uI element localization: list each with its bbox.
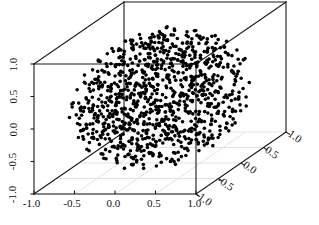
z-tick-label-1: 0.5: [8, 90, 19, 104]
scatter3d-figure: -1.0-0.50.00.51.0 1.00.50.0-0.5-1.0 -1.0…: [0, 0, 319, 225]
z-tick-label-3: -0.5: [7, 153, 18, 170]
axis-tick-marks: [31, 64, 291, 197]
x-tick-label-1: -0.5: [63, 198, 80, 209]
z-tick-label-2: 0.0: [8, 122, 19, 136]
x-tick-label-2: 0.0: [107, 198, 121, 209]
x-tick-label-3: 0.5: [147, 198, 161, 209]
z-tick-label-0: 1.0: [8, 57, 19, 71]
scatter-point-cloud: [68, 25, 251, 170]
x-tick-label-0: -1.0: [23, 198, 40, 209]
plot-canvas: [0, 0, 319, 225]
z-tick-label-4: -1.0: [7, 185, 18, 202]
